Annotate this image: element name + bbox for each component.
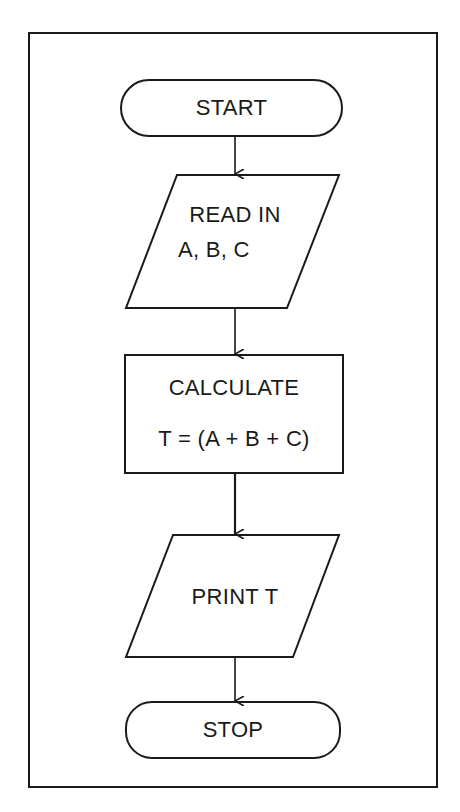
read-label-line2: A, B, C bbox=[178, 237, 250, 263]
calculate-label-line1: CALCULATE bbox=[125, 375, 343, 401]
flowchart-canvas bbox=[0, 0, 460, 812]
read-label-line1: READ IN bbox=[180, 202, 290, 228]
calculate-process-shape bbox=[125, 355, 343, 473]
stop-label: STOP bbox=[126, 717, 340, 743]
outer-frame bbox=[29, 33, 437, 787]
print-label: PRINT T bbox=[180, 584, 290, 610]
start-label: START bbox=[121, 95, 342, 121]
calculate-label-line2: T = (A + B + C) bbox=[125, 426, 343, 452]
